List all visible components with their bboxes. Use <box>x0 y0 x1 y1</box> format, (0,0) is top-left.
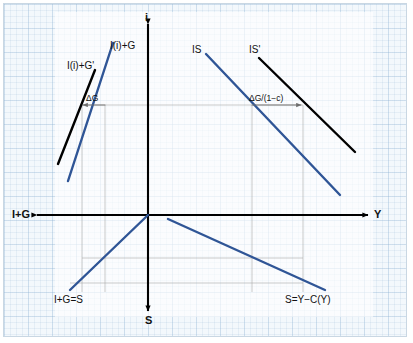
annotation-label-delta-g-multiplier: ΔG/(1−c) <box>249 94 283 103</box>
quadrant-top-right-curves <box>206 54 355 195</box>
diagram-svg <box>0 0 413 343</box>
axis-label-bottom: S <box>145 315 152 326</box>
quadrant-bottom-right-curves <box>168 219 325 290</box>
curve-label-investment-baseline: I(i)+G <box>110 41 135 51</box>
curve-label-savings-function: S=Y−C(Y) <box>285 295 331 305</box>
curve-savings-function <box>168 219 325 290</box>
axis-label-top: i <box>145 12 148 23</box>
curve-is-baseline <box>206 54 340 195</box>
figure-canvas: i S I+G Y I(i)+G I(i)+G' IS IS' I+G=S S=… <box>0 0 413 343</box>
axis-label-left: I+G <box>12 209 30 220</box>
curve-label-is-baseline: IS <box>192 45 201 55</box>
annotation-label-delta-g: ΔG <box>86 94 98 103</box>
curve-label-is-shifted: IS' <box>249 45 260 55</box>
curve-label-investment-shifted: I(i)+G' <box>67 61 94 71</box>
axis-label-right: Y <box>374 209 381 220</box>
curve-label-equilibrium-line: I+G=S <box>54 295 83 305</box>
